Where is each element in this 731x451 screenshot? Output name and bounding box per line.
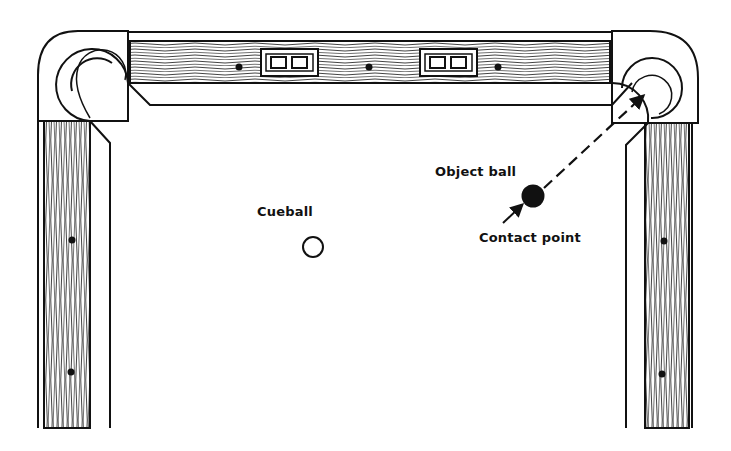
- diamond-sight: [366, 64, 373, 71]
- diamond-sight: [68, 369, 75, 376]
- diamond-sight: [236, 64, 243, 71]
- cueball: [303, 237, 323, 257]
- pool-table-diagram: [0, 0, 731, 451]
- cueball-label: Cueball: [257, 204, 313, 219]
- left-cushion: [90, 121, 110, 428]
- diamond-sight: [495, 64, 502, 71]
- right-rail-wood: [645, 123, 689, 428]
- contact-point-label: Contact point: [479, 230, 581, 245]
- contact-arrow: [503, 205, 522, 223]
- left-rail: [38, 121, 110, 428]
- object-ball-label: Object ball: [435, 164, 516, 179]
- top-right-corner-pocket: [612, 31, 698, 123]
- diamond-sight: [659, 371, 666, 378]
- object-ball: [522, 185, 545, 208]
- left-rail-wood: [44, 121, 90, 428]
- rail-plate: [420, 49, 477, 76]
- diamond-sight: [69, 237, 76, 244]
- top-cushion: [128, 83, 632, 105]
- top-rail-wood: [130, 41, 610, 83]
- right-rail: [626, 123, 692, 428]
- diamond-sight: [661, 238, 668, 245]
- top-left-corner-pocket: [38, 31, 128, 121]
- rail-plate: [261, 49, 318, 76]
- top-rail: [128, 32, 632, 105]
